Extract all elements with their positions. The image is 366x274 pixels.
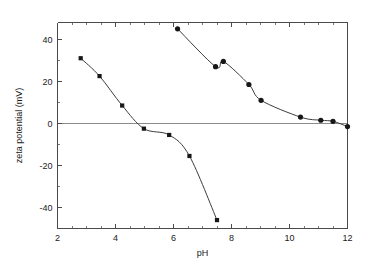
x-tick-label: 4 — [113, 233, 118, 243]
data-point-square — [187, 154, 191, 158]
data-point-square — [167, 133, 171, 137]
zeta-potential-chart: 24681012 -40-2002040 pH zeta potential (… — [0, 0, 366, 274]
y-tick-label: 0 — [47, 119, 52, 129]
data-point-square — [120, 103, 124, 107]
x-axis-minor-ticks — [58, 23, 348, 229]
data-point-square — [142, 127, 146, 131]
series-circles-line — [178, 29, 348, 127]
data-point-circle — [213, 64, 218, 69]
figure-container: 24681012 -40-2002040 pH zeta potential (… — [0, 0, 366, 274]
data-point-circle — [330, 119, 335, 124]
y-axis-title: zeta potential (mV) — [14, 88, 24, 164]
data-point-circle — [298, 114, 303, 119]
data-point-square — [215, 218, 219, 222]
x-axis-major-ticks — [58, 23, 348, 229]
x-axis-title: pH — [197, 248, 209, 258]
y-tick-label: 20 — [42, 77, 52, 87]
caption-partial-text — [0, 266, 366, 274]
y-tick-label: -20 — [39, 161, 52, 171]
y-tick-label: -40 — [39, 203, 52, 213]
data-point-circle — [345, 124, 350, 129]
data-point-square — [79, 56, 83, 60]
x-tick-label: 2 — [55, 233, 60, 243]
series-squares — [79, 56, 220, 222]
y-tick-label: 40 — [42, 35, 52, 45]
data-point-circle — [318, 118, 323, 123]
y-axis-major-ticks — [58, 39, 63, 207]
series-circles — [175, 26, 350, 129]
x-tick-label: 12 — [342, 233, 352, 243]
y-axis-tick-labels: -40-2002040 — [39, 35, 52, 213]
data-point-circle — [258, 98, 263, 103]
data-point-circle — [221, 59, 226, 64]
data-point-circle — [175, 26, 180, 31]
x-tick-label: 6 — [171, 233, 176, 243]
x-axis-tick-labels: 24681012 — [55, 233, 353, 243]
series-squares-line — [81, 58, 217, 220]
data-point-circle — [246, 82, 251, 87]
data-point-square — [97, 74, 101, 78]
x-tick-label: 8 — [229, 233, 234, 243]
data-series-layer — [79, 26, 351, 222]
x-tick-label: 10 — [284, 233, 294, 243]
caption-strip — [0, 266, 366, 274]
